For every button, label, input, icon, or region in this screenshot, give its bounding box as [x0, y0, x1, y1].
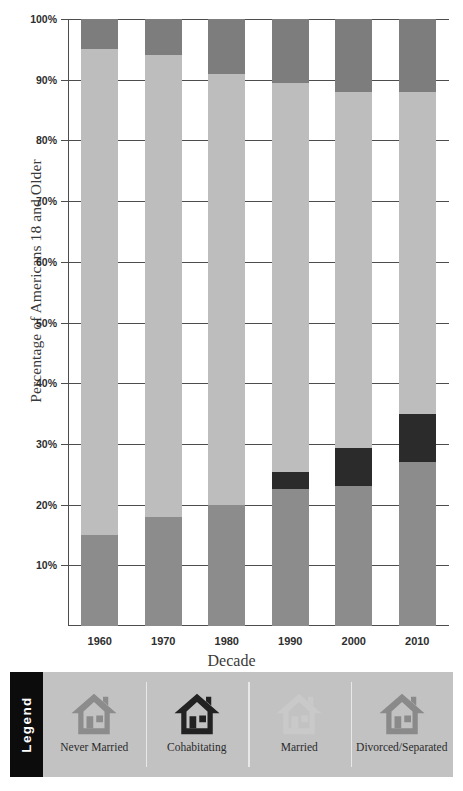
bar-segment — [145, 55, 182, 516]
bar-segment — [335, 19, 372, 92]
legend-item[interactable]: Never Married — [43, 672, 146, 777]
bar-segment — [335, 448, 372, 486]
bar-segment — [145, 19, 182, 55]
bar-segment — [399, 19, 436, 92]
y-axis-tick-label: 20% — [36, 499, 57, 511]
house-icon — [378, 692, 426, 741]
bar-2000 — [335, 19, 372, 626]
bar-segment — [335, 92, 372, 448]
gridline — [68, 140, 449, 141]
y-axis-tick — [61, 505, 68, 506]
bar-segment — [335, 486, 372, 626]
y-axis-tick — [61, 323, 68, 324]
gridline — [68, 262, 449, 263]
bar-segment — [272, 472, 309, 489]
gridline — [68, 383, 449, 384]
y-axis-tick-label: 40% — [36, 377, 57, 389]
gridline — [68, 80, 449, 81]
y-axis-tick — [61, 80, 68, 81]
house-icon — [70, 692, 118, 741]
legend-item-label: Divorced/Separated — [356, 741, 447, 753]
bar-segment — [81, 19, 118, 49]
plot-area: 10%20%30%40%50%60%70%80%90%100% 19601970… — [68, 19, 449, 626]
y-axis-tick — [61, 201, 68, 202]
gridline — [68, 323, 449, 324]
bar-1970 — [145, 19, 182, 626]
bar-segment — [399, 414, 436, 463]
legend-item-label: Never Married — [60, 741, 128, 753]
house-icon — [275, 692, 323, 741]
bar-segment — [272, 19, 309, 83]
gridline — [68, 19, 449, 20]
gridline — [68, 444, 449, 445]
bar-segment — [272, 83, 309, 473]
legend-item[interactable]: Cohabitating — [146, 672, 249, 777]
y-axis-tick-label: 70% — [36, 195, 57, 207]
legend-item[interactable]: Divorced/Separated — [351, 672, 454, 777]
gridline — [68, 201, 449, 202]
x-axis-tick-label: 1990 — [278, 635, 302, 647]
legend-items: Never Married Cohabitating Married Divor… — [43, 672, 453, 777]
y-axis-tick-label: 90% — [36, 74, 57, 86]
house-icon — [173, 692, 221, 741]
bar-1960 — [81, 19, 118, 626]
y-axis-tick-label: 10% — [36, 559, 57, 571]
gridline — [68, 565, 449, 566]
y-axis-tick — [61, 262, 68, 263]
y-axis-tick — [61, 140, 68, 141]
bar-1990 — [272, 19, 309, 626]
bar-segment — [208, 19, 245, 74]
y-axis-tick — [61, 444, 68, 445]
legend: Legend Never Married Cohabitating Marrie… — [10, 672, 453, 777]
bar-segment — [208, 74, 245, 505]
y-axis-tick-label: 60% — [36, 256, 57, 268]
y-axis-tick-label: 30% — [36, 438, 57, 450]
y-axis-tick — [61, 19, 68, 20]
bar-segment — [399, 92, 436, 414]
x-axis-title: Decade — [0, 652, 463, 670]
y-axis-tick — [61, 383, 68, 384]
legend-banner-label: Legend — [19, 696, 34, 752]
gridline — [68, 505, 449, 506]
x-axis-tick-label: 1960 — [88, 635, 112, 647]
y-axis-tick-label: 80% — [36, 134, 57, 146]
legend-item-label: Cohabitating — [167, 741, 226, 753]
legend-item[interactable]: Married — [248, 672, 351, 777]
bar-2010 — [399, 19, 436, 626]
x-axis-tick-label: 2000 — [342, 635, 366, 647]
bar-segment — [81, 535, 118, 626]
x-axis-tick-label: 1980 — [215, 635, 239, 647]
legend-banner: Legend — [10, 672, 43, 777]
bar-segment — [208, 505, 245, 626]
stacked-bar-chart: Percentage of Americans 18 and Older 10%… — [0, 0, 463, 660]
bar-segment — [81, 49, 118, 535]
x-axis-tick-label: 1970 — [151, 635, 175, 647]
bar-1980 — [208, 19, 245, 626]
x-axis-tick-label: 2010 — [405, 635, 429, 647]
y-axis-tick-label: 50% — [36, 317, 57, 329]
y-axis-tick-label: 100% — [30, 13, 57, 25]
bar-segment — [399, 462, 436, 626]
y-axis-tick — [61, 565, 68, 566]
legend-item-label: Married — [281, 741, 318, 753]
bar-segment — [145, 517, 182, 626]
bar-segment — [272, 489, 309, 626]
